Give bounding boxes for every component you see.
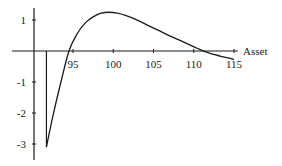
x-tick-label: 105 [145,58,162,70]
x-tick-label: 115 [226,58,243,70]
y-ticks: 1-1-2-3 [17,14,36,150]
y-tick-label: -2 [17,107,26,119]
series-line [46,12,234,147]
chart: 95100105110115 1-1-2-3 Asset [0,0,282,166]
y-tick-label: 1 [21,14,27,26]
y-tick-label: -1 [17,76,26,88]
x-axis-title: Asset [243,45,267,57]
x-ticks: 95100105110115 [68,49,243,70]
y-tick-label: -3 [17,138,27,150]
x-tick-label: 95 [68,58,80,70]
x-tick-label: 110 [186,58,203,70]
x-tick-label: 100 [105,58,122,70]
